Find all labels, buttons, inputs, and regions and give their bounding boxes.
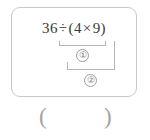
paren-close: ) xyxy=(101,20,106,36)
multiplication-operator: × xyxy=(82,20,93,36)
division-operator: ÷ xyxy=(58,20,69,36)
answer-blank[interactable]: ( ) xyxy=(0,104,150,132)
math-expression: 36÷(4×9) xyxy=(12,21,136,36)
step-marker-2: ② xyxy=(84,74,97,87)
operand-9: 9 xyxy=(93,20,101,36)
operand-4: 4 xyxy=(74,20,82,36)
problem-card: 36÷(4×9) ① ② xyxy=(11,7,137,97)
step-two-brace xyxy=(67,41,115,70)
operand-36: 36 xyxy=(42,20,58,36)
math-problem-worksheet: 36÷(4×9) ① ② ( ) xyxy=(0,0,150,140)
answer-paren-close: ) xyxy=(104,104,112,130)
step-marker-1: ① xyxy=(76,49,89,62)
answer-paren-open: ( xyxy=(39,104,47,130)
step-two-brace-left-tick xyxy=(67,62,68,70)
